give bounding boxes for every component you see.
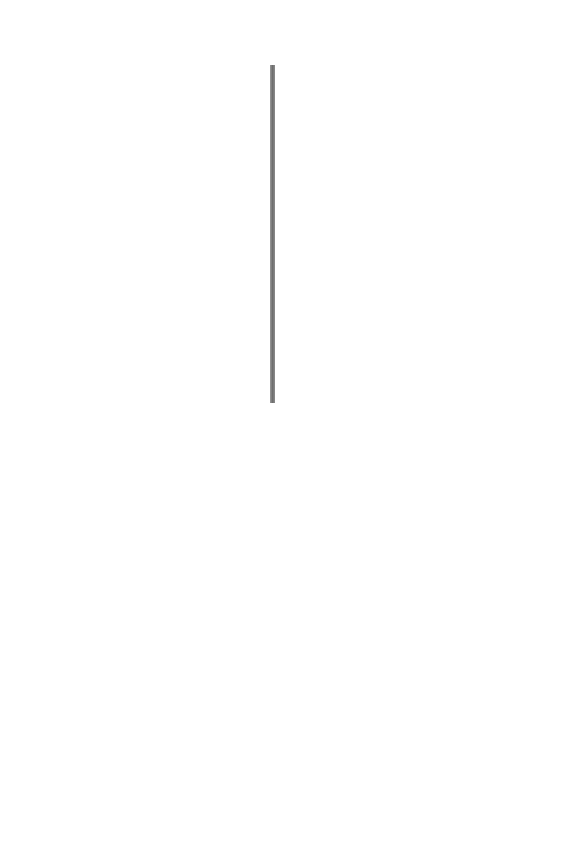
blank-page (0, 0, 564, 856)
vertical-divider (270, 65, 275, 403)
